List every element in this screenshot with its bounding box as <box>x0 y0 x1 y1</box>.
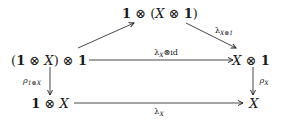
unit-object: 1 <box>31 96 40 111</box>
label-lambda-x: λX <box>154 108 163 117</box>
label-lambda-x-tensor-id: λX⊗id <box>154 49 178 58</box>
unit-object: 1 <box>78 53 87 68</box>
object-x: X <box>59 96 68 111</box>
close-paren: ) <box>193 6 198 21</box>
unit-object: 1 <box>261 53 270 68</box>
node-bottom-right: X <box>249 97 258 110</box>
label-tensor-id: ⊗id <box>163 48 177 57</box>
unit-object: 1 <box>122 6 131 21</box>
node-mid-right: X ⊗ 1 <box>232 54 269 67</box>
node-bottom-left: 1 ⊗ X <box>31 97 68 110</box>
unit-object: 1 <box>184 6 193 21</box>
label-lambda-x-tensor-1: λX⊗1 <box>215 27 233 36</box>
arrow-left-to-top <box>78 23 134 48</box>
label-rho-x: ρX <box>260 77 269 86</box>
tensor-op: ⊗ <box>242 53 261 68</box>
node-top: 1 ⊗ (X ⊗ 1) <box>122 7 198 20</box>
label-subscript: 1⊗X <box>28 79 41 86</box>
tensor-op: ⊗ <box>165 6 184 21</box>
tensor-open: ⊗ ( <box>131 6 155 21</box>
object-x: X <box>249 96 258 111</box>
label-subscript: X⊗1 <box>220 29 233 36</box>
object-x: X <box>155 6 164 21</box>
object-x: X <box>232 53 241 68</box>
label-subscript: X <box>264 79 268 86</box>
tensor-op: ⊗ <box>40 96 59 111</box>
label-rho-1-tensor-x: ρ1⊗X <box>23 77 41 86</box>
tensor-op: ⊗ <box>25 53 44 68</box>
unit-object: 1 <box>16 53 25 68</box>
node-mid-left: (1 ⊗ X) ⊗ 1 <box>11 54 87 67</box>
label-subscript: X <box>159 110 163 117</box>
tensor-op: ⊗ <box>59 53 78 68</box>
object-x: X <box>44 53 53 68</box>
